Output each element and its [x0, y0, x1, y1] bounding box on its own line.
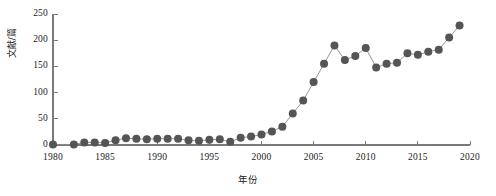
data-point — [164, 135, 172, 143]
data-point — [247, 133, 255, 141]
y-tick-label: 50 — [38, 113, 48, 123]
data-point — [445, 34, 453, 42]
data-point — [205, 136, 213, 144]
data-point — [320, 60, 328, 68]
data-point — [185, 136, 193, 144]
chart-container: 050100150200250 198019851990199520002005… — [0, 0, 496, 196]
x-tick-label: 2005 — [294, 152, 334, 162]
data-point — [435, 46, 443, 54]
data-point — [258, 131, 266, 139]
data-point — [174, 135, 182, 143]
y-axis-title: 文献/篇 — [7, 44, 18, 58]
data-point — [341, 56, 349, 64]
data-point — [101, 139, 109, 147]
x-tick-label: 2020 — [450, 152, 490, 162]
data-point — [362, 44, 370, 52]
y-tick-label: 0 — [43, 139, 48, 149]
data-point — [216, 135, 224, 143]
data-point — [143, 135, 151, 143]
data-point — [237, 134, 245, 142]
data-point — [195, 137, 203, 145]
data-point — [372, 63, 380, 71]
data-point — [49, 140, 57, 148]
y-tick-label: 250 — [33, 8, 48, 18]
data-point — [132, 135, 140, 143]
data-point — [456, 22, 464, 30]
chart-plot-area — [0, 0, 496, 196]
y-tick-label: 150 — [33, 60, 48, 70]
data-point — [226, 138, 234, 146]
data-point — [112, 136, 120, 144]
data-point — [289, 110, 297, 118]
data-point — [310, 78, 318, 86]
data-point — [70, 140, 78, 148]
x-tick-label: 1980 — [33, 152, 73, 162]
data-point — [383, 60, 391, 68]
y-tick-label: 200 — [33, 34, 48, 44]
chart-axes — [53, 14, 470, 145]
data-point — [299, 96, 307, 104]
data-point — [424, 48, 432, 56]
data-point — [122, 134, 130, 142]
data-point — [268, 127, 276, 135]
x-tick-label: 2015 — [398, 152, 438, 162]
data-point — [80, 138, 88, 146]
data-point — [153, 135, 161, 143]
x-tick-label: 1985 — [85, 152, 125, 162]
x-tick-label: 1990 — [137, 152, 177, 162]
chart-series — [49, 22, 464, 149]
data-point — [91, 138, 99, 146]
data-point — [414, 51, 422, 59]
data-point — [403, 49, 411, 57]
x-tick-label: 2000 — [242, 152, 282, 162]
x-tick-label: 2010 — [346, 152, 386, 162]
data-point — [278, 123, 286, 131]
x-axis-title: 年份 — [0, 172, 496, 186]
data-point — [330, 41, 338, 49]
data-point — [393, 59, 401, 67]
data-point — [351, 52, 359, 60]
x-tick-label: 1995 — [189, 152, 229, 162]
y-tick-label: 100 — [33, 87, 48, 97]
